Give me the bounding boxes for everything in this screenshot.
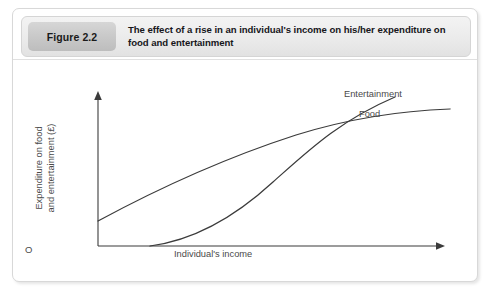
curve-label-entertainment: Entertainment <box>344 89 402 99</box>
figure-container: Figure 2.2 The effect of a rise in an in… <box>12 8 478 282</box>
chart-panel: Expenditure on food and entertainment (£… <box>21 64 471 275</box>
y-axis-label: Expenditure on food and entertainment (£… <box>33 108 57 228</box>
x-axis-arrow-icon <box>436 242 445 250</box>
origin-label: O <box>25 244 32 255</box>
y-axis-label-line1: Expenditure on food <box>34 126 44 209</box>
y-axis-arrow-icon <box>94 91 102 100</box>
x-axis-label: Individual's income <box>174 249 252 259</box>
header-divider <box>13 59 477 60</box>
figure-header: Figure 2.2 The effect of a rise in an in… <box>21 16 471 57</box>
figure-title: The effect of a rise in an individual's … <box>128 24 464 49</box>
curve-label-food: Food <box>359 109 380 119</box>
curve-food <box>98 109 450 221</box>
chart-graphic <box>21 64 471 275</box>
figure-number-badge: Figure 2.2 <box>28 22 116 51</box>
y-axis-label-line2: and entertainment (£) <box>46 124 56 213</box>
